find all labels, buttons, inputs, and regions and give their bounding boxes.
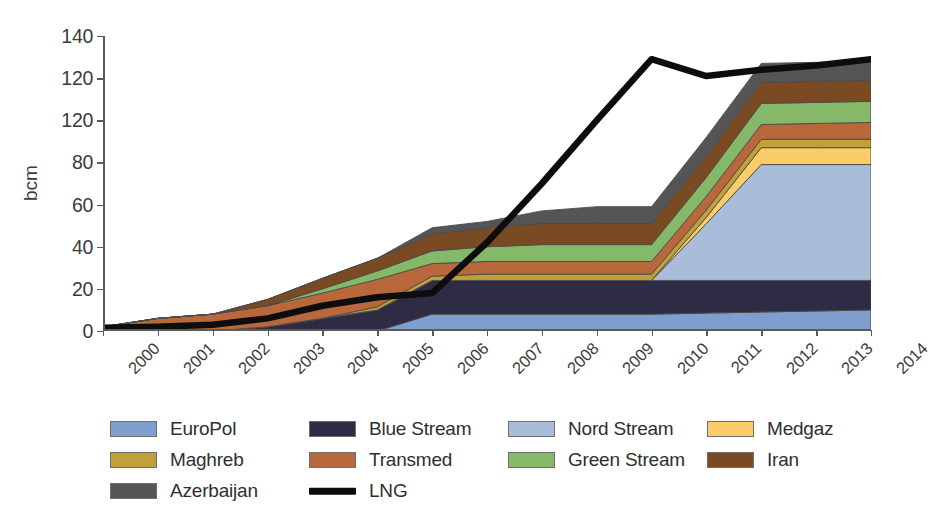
legend-swatch-icon <box>508 452 555 468</box>
x-tick <box>268 330 269 336</box>
y-tick <box>97 78 103 79</box>
legend-swatch-icon <box>508 421 555 437</box>
x-tick <box>158 330 159 336</box>
x-tick <box>487 330 488 336</box>
legend-label: Green Stream <box>568 449 685 471</box>
y-tick-label: 0 <box>82 320 93 343</box>
legend-label: Azerbaijan <box>170 480 258 502</box>
x-tick <box>542 330 543 336</box>
legend-swatch-icon <box>110 483 157 499</box>
legend-item-iran[interactable]: Iran <box>707 449 840 471</box>
x-tick <box>871 330 872 336</box>
x-tick <box>322 330 323 336</box>
x-tick <box>213 330 214 336</box>
y-tick <box>97 120 103 121</box>
x-tick <box>103 330 104 336</box>
y-tick-label: 20 <box>72 277 93 300</box>
y-tick <box>97 162 103 163</box>
y-axis-line <box>103 36 105 331</box>
y-tick-label: 120 <box>61 67 93 90</box>
x-tick <box>377 330 378 336</box>
legend-item-maghreb[interactable]: Maghreb <box>110 449 309 471</box>
chart-legend: EuroPol Blue Stream Nord Stream Medgaz M… <box>110 418 840 511</box>
x-tick-label: 2006 <box>454 339 493 378</box>
legend-item-blue-stream[interactable]: Blue Stream <box>309 418 508 440</box>
y-tick <box>97 247 103 248</box>
legend-swatch-icon <box>110 452 157 468</box>
legend-item-nord-stream[interactable]: Nord Stream <box>508 418 707 440</box>
legend-label: Maghreb <box>170 449 244 471</box>
x-tick-label: 2002 <box>234 339 273 378</box>
y-tick-label: 60 <box>72 193 93 216</box>
legend-item-transmed[interactable]: Transmed <box>309 449 508 471</box>
legend-swatch-icon <box>707 421 754 437</box>
plot-area: 020406080120120140 200020012002200320042… <box>103 36 871 331</box>
legend-label: Transmed <box>369 449 452 471</box>
legend-label: Medgaz <box>767 418 833 440</box>
y-tick-label: 80 <box>72 151 93 174</box>
legend-swatch-icon <box>110 421 157 437</box>
legend-line-icon <box>309 483 356 499</box>
legend-item-medgaz[interactable]: Medgaz <box>707 418 840 440</box>
legend-row: Azerbaijan LNG <box>110 480 840 511</box>
x-tick <box>761 330 762 336</box>
x-tick <box>816 330 817 336</box>
x-tick <box>432 330 433 336</box>
legend-row: Maghreb Transmed Green Stream Iran <box>110 449 840 480</box>
x-tick-label: 2012 <box>783 339 822 378</box>
legend-label: EuroPol <box>170 418 236 440</box>
stacked-area-series-group <box>103 36 871 331</box>
legend-item-green-stream[interactable]: Green Stream <box>508 449 707 471</box>
y-tick <box>97 36 103 37</box>
x-tick-label: 2001 <box>179 339 218 378</box>
legend-label: Blue Stream <box>369 418 471 440</box>
y-tick <box>97 205 103 206</box>
legend-label: LNG <box>369 480 407 502</box>
legend-item-azerbaijan[interactable]: Azerbaijan <box>110 480 309 502</box>
x-tick <box>597 330 598 336</box>
x-tick-label: 2008 <box>563 339 602 378</box>
x-tick-label: 2003 <box>289 339 328 378</box>
y-tick <box>97 289 103 290</box>
legend-swatch-icon <box>309 452 356 468</box>
legend-label: Nord Stream <box>568 418 674 440</box>
x-tick-label: 2010 <box>673 339 712 378</box>
x-tick-label: 2005 <box>399 339 438 378</box>
x-tick-label: 2011 <box>728 339 766 377</box>
y-tick-label: 120 <box>61 109 93 132</box>
legend-swatch-icon <box>707 452 754 468</box>
x-tick-label: 2000 <box>125 339 164 378</box>
legend-item-europol[interactable]: EuroPol <box>110 418 309 440</box>
y-tick-label: 40 <box>72 235 93 258</box>
x-tick-label: 2004 <box>344 339 383 378</box>
x-tick-label: 2013 <box>838 339 877 378</box>
legend-swatch-icon <box>309 421 356 437</box>
legend-item-lng[interactable]: LNG <box>309 480 508 502</box>
x-tick <box>652 330 653 336</box>
x-tick-label: 2009 <box>618 339 657 378</box>
y-axis-title: bcm <box>20 165 42 201</box>
legend-row: EuroPol Blue Stream Nord Stream Medgaz <box>110 418 840 449</box>
x-tick <box>706 330 707 336</box>
legend-label: Iran <box>767 449 799 471</box>
x-tick-label: 2007 <box>509 339 548 378</box>
x-tick-label: 2014 <box>893 339 931 378</box>
y-tick-label: 140 <box>61 25 93 48</box>
